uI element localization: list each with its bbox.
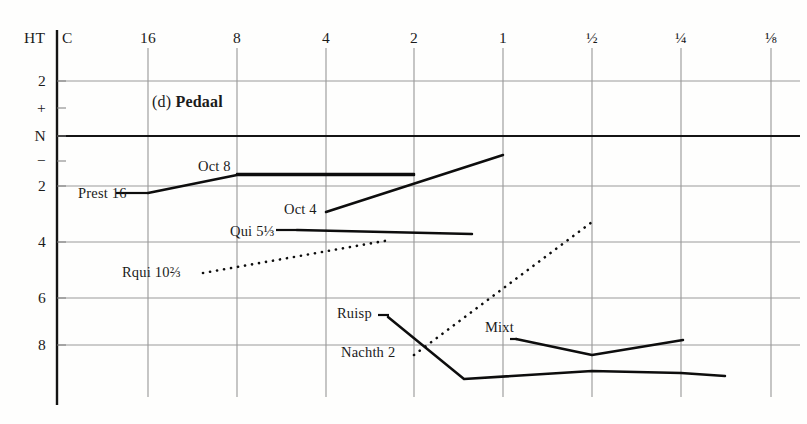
panel-title: (d) Pedaal (152, 94, 223, 110)
series-label: Nachth 2 (341, 345, 395, 360)
series-line (148, 175, 414, 193)
y-axis-tick-label: − (18, 153, 46, 169)
x-axis-tick-label: 1 (499, 30, 507, 46)
series-label: Oct 8 (198, 159, 231, 174)
y-axis-tick-label: 2 (18, 178, 46, 194)
y-axis-tick-label: 6 (18, 290, 46, 306)
x-axis-tick-label: ½ (586, 30, 598, 46)
x-axis-tick-label: 2 (410, 30, 418, 46)
series-label: Mixt (485, 320, 514, 335)
panel-label: (d) (152, 93, 171, 110)
chart-plot-svg (0, 0, 807, 424)
y-axis-tick-label: 4 (18, 234, 46, 250)
series-label: Rqui 10⅔ (122, 265, 181, 280)
y-axis-tick-label: + (18, 100, 46, 116)
series-line (203, 240, 390, 273)
series-line (297, 230, 472, 234)
x-axis-tick-label: ¼ (675, 30, 687, 46)
x-axis-tick-label: ⅛ (765, 30, 777, 46)
x-axis-tick-label: 8 (233, 30, 241, 46)
axis-corner-left-label: HT (24, 30, 45, 46)
series-label: Qui 5⅓ (230, 224, 275, 239)
axis-corner-right-label: C (62, 30, 73, 46)
series-line (516, 339, 683, 355)
y-axis-tick-label: N (18, 128, 46, 144)
series-label: Ruisp (337, 306, 372, 321)
series-label: Prest 16 (78, 186, 127, 201)
panel-title-text: Pedaal (175, 93, 222, 110)
y-axis-tick-label: 8 (18, 337, 46, 353)
x-axis-tick-label: 16 (140, 30, 156, 46)
series-label: Oct 4 (284, 202, 317, 217)
chart-figure: HT C (d) Pedaal 168421½¼⅛ 2+N−2468 Prest… (0, 0, 807, 424)
y-axis-tick-label: 2 (18, 73, 46, 89)
axes-group (57, 30, 66, 405)
x-axis-tick-label: 4 (322, 30, 330, 46)
